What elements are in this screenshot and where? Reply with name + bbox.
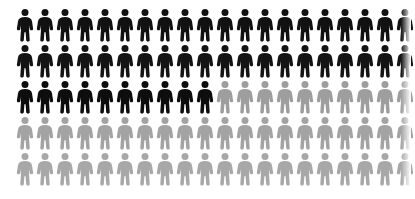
person-icon-filled bbox=[255, 43, 275, 79]
person-icon-filled bbox=[55, 43, 75, 79]
person-icon-empty bbox=[135, 151, 155, 187]
person-icon-filled bbox=[195, 79, 215, 115]
person-icon-empty bbox=[295, 115, 315, 151]
person-icon-filled bbox=[355, 43, 375, 79]
person-icon-filled bbox=[15, 7, 35, 43]
person-icon-filled bbox=[215, 43, 235, 79]
person-icon-filled bbox=[155, 79, 175, 115]
person-icon-empty bbox=[395, 115, 415, 151]
person-icon-empty bbox=[255, 115, 275, 151]
person-icon-empty bbox=[355, 115, 375, 151]
person-icon-empty bbox=[295, 151, 315, 187]
person-icon-filled bbox=[375, 43, 395, 79]
person-icon-filled bbox=[115, 43, 135, 79]
person-icon-empty bbox=[375, 151, 395, 187]
person-icon-filled bbox=[35, 7, 55, 43]
person-icon-filled bbox=[315, 7, 335, 43]
person-icon-empty bbox=[115, 115, 135, 151]
person-icon-empty bbox=[315, 79, 335, 115]
person-icon-filled bbox=[235, 7, 255, 43]
person-icon-empty bbox=[375, 115, 395, 151]
person-icon-empty bbox=[155, 115, 175, 151]
person-icon-empty bbox=[135, 115, 155, 151]
person-icon-filled bbox=[135, 79, 155, 115]
person-icon-filled bbox=[175, 79, 195, 115]
person-icon-empty bbox=[315, 115, 335, 151]
person-icon-filled bbox=[95, 7, 115, 43]
person-icon-filled bbox=[195, 43, 215, 79]
person-icon-filled bbox=[55, 79, 75, 115]
person-icon-filled bbox=[115, 79, 135, 115]
person-icon-empty bbox=[275, 79, 295, 115]
person-icon-empty bbox=[215, 115, 235, 151]
person-icon-empty bbox=[255, 79, 275, 115]
pictogram-row bbox=[15, 7, 415, 43]
pictogram-row bbox=[15, 79, 415, 115]
person-icon-empty bbox=[195, 115, 215, 151]
person-icon-empty bbox=[55, 115, 75, 151]
person-icon-filled bbox=[15, 79, 35, 115]
person-icon-filled bbox=[15, 43, 35, 79]
person-icon-filled bbox=[175, 7, 195, 43]
person-icon-filled bbox=[355, 7, 375, 43]
person-icon-filled bbox=[35, 43, 55, 79]
person-icon-empty bbox=[35, 151, 55, 187]
person-icon-empty bbox=[355, 79, 375, 115]
person-icon-empty bbox=[95, 151, 115, 187]
person-icon-filled bbox=[215, 7, 235, 43]
person-icon-empty bbox=[255, 151, 275, 187]
person-icon-empty bbox=[235, 115, 255, 151]
person-icon-filled bbox=[395, 7, 415, 43]
person-icon-empty bbox=[215, 79, 235, 115]
person-icon-empty bbox=[395, 79, 415, 115]
person-icon-empty bbox=[275, 115, 295, 151]
person-icon-filled bbox=[255, 7, 275, 43]
person-icon-empty bbox=[215, 151, 235, 187]
person-icon-empty bbox=[335, 115, 355, 151]
person-icon-filled bbox=[75, 79, 95, 115]
person-icon-empty bbox=[315, 151, 335, 187]
left-edge-fade bbox=[0, 0, 14, 199]
person-icon-filled bbox=[235, 43, 255, 79]
person-icon-empty bbox=[115, 151, 135, 187]
person-icon-filled bbox=[55, 7, 75, 43]
pictogram-row bbox=[15, 43, 415, 79]
person-icon-empty bbox=[35, 115, 55, 151]
pictogram-row bbox=[15, 115, 415, 151]
person-icon-empty bbox=[15, 115, 35, 151]
person-icon-empty bbox=[155, 151, 175, 187]
person-icon-empty bbox=[235, 79, 255, 115]
person-icon-filled bbox=[135, 7, 155, 43]
person-icon-empty bbox=[75, 115, 95, 151]
person-icon-filled bbox=[75, 7, 95, 43]
person-icon-empty bbox=[335, 79, 355, 115]
person-icon-empty bbox=[335, 151, 355, 187]
person-icon-empty bbox=[375, 79, 395, 115]
person-icon-empty bbox=[95, 115, 115, 151]
person-icon-empty bbox=[395, 151, 415, 187]
person-icon-empty bbox=[15, 151, 35, 187]
person-icon-filled bbox=[195, 7, 215, 43]
person-icon-empty bbox=[195, 151, 215, 187]
person-icon-filled bbox=[95, 79, 115, 115]
person-icon-filled bbox=[275, 7, 295, 43]
person-icon-filled bbox=[75, 43, 95, 79]
person-icon-empty bbox=[355, 151, 375, 187]
person-icon-filled bbox=[335, 43, 355, 79]
person-icon-filled bbox=[95, 43, 115, 79]
person-icon-filled bbox=[135, 43, 155, 79]
person-icon-empty bbox=[295, 79, 315, 115]
person-icon-filled bbox=[115, 7, 135, 43]
person-icon-filled bbox=[295, 7, 315, 43]
person-icon-filled bbox=[315, 43, 335, 79]
person-icon-empty bbox=[175, 115, 195, 151]
person-icon-empty bbox=[75, 151, 95, 187]
person-icon-filled bbox=[295, 43, 315, 79]
person-icon-filled bbox=[155, 7, 175, 43]
pictogram-grid bbox=[15, 7, 415, 187]
person-icon-filled bbox=[155, 43, 175, 79]
person-icon-filled bbox=[335, 7, 355, 43]
pictogram-row bbox=[15, 151, 415, 187]
person-icon-empty bbox=[55, 151, 75, 187]
